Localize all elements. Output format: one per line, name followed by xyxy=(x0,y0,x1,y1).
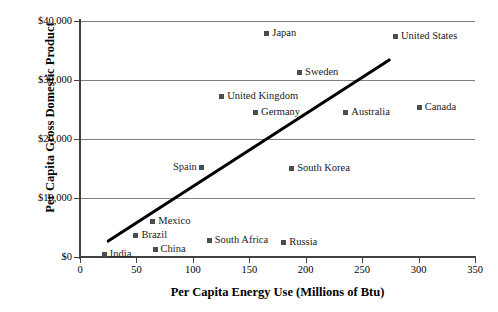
y-tick-label: $30,000 xyxy=(0,74,72,85)
x-tick-mark xyxy=(80,258,81,263)
y-axis-line xyxy=(79,19,81,259)
data-point-marker xyxy=(207,238,212,243)
y-axis-title-text: Per Capita Gross Domestic Product xyxy=(43,22,57,212)
data-point-marker xyxy=(297,70,302,75)
x-tick-mark xyxy=(249,258,250,263)
data-point-label: China xyxy=(161,243,186,255)
x-tick-mark xyxy=(306,258,307,263)
data-point-marker xyxy=(253,110,258,115)
data-point-label: Australia xyxy=(351,106,390,118)
x-tick-mark xyxy=(362,258,363,263)
data-point-marker xyxy=(150,219,155,224)
y-tick-label: $40,000 xyxy=(0,15,72,26)
data-point-marker xyxy=(264,31,269,36)
x-tick-label: 300 xyxy=(399,264,439,275)
y-tick-mark xyxy=(74,80,79,81)
data-point-label: Spain xyxy=(173,161,197,173)
data-point-label: Mexico xyxy=(158,215,190,227)
x-axis-title-text: Per Capita Energy Use (Millions of Btu) xyxy=(171,285,385,299)
y-tick-mark xyxy=(74,257,79,258)
chart-figure: $0$10,000$20,000$30,000$40,000 050100150… xyxy=(0,0,498,312)
data-point-marker xyxy=(393,34,398,39)
data-point-label: Canada xyxy=(425,101,457,113)
x-axis-line xyxy=(79,256,476,258)
data-point-marker xyxy=(153,247,158,252)
data-point-label: South Korea xyxy=(297,162,350,174)
plot-area xyxy=(80,21,475,257)
data-point-label: South Africa xyxy=(215,234,268,246)
x-tick-mark xyxy=(193,258,194,263)
data-point-marker xyxy=(133,233,138,238)
data-point-marker xyxy=(417,105,422,110)
data-point-label: Japan xyxy=(272,27,296,39)
y-tick-mark xyxy=(74,198,79,199)
y-axis-title: Per Capita Gross Domestic Product xyxy=(43,0,58,238)
y-tick-label: $20,000 xyxy=(0,133,72,144)
data-point-marker xyxy=(289,166,294,171)
data-point-marker xyxy=(219,94,224,99)
x-axis-title: Per Capita Energy Use (Millions of Btu) xyxy=(79,285,476,300)
data-point-marker xyxy=(343,110,348,115)
gridline xyxy=(80,80,475,81)
x-tick-label: 100 xyxy=(173,264,213,275)
x-tick-label: 50 xyxy=(116,264,156,275)
x-tick-label: 350 xyxy=(455,264,495,275)
y-tick-mark xyxy=(74,139,79,140)
data-point-marker xyxy=(199,165,204,170)
x-tick-mark xyxy=(475,258,476,263)
data-point-label: United States xyxy=(401,30,457,42)
y-tick-mark xyxy=(74,21,79,22)
gridline xyxy=(80,21,475,22)
x-tick-label: 250 xyxy=(342,264,382,275)
gridline xyxy=(80,198,475,199)
x-tick-mark xyxy=(136,258,137,263)
x-tick-label: 200 xyxy=(286,264,326,275)
data-point-marker xyxy=(281,240,286,245)
x-tick-label: 0 xyxy=(60,264,100,275)
data-point-label: United Kingdom xyxy=(227,90,298,102)
y-tick-label: $10,000 xyxy=(0,192,72,203)
data-point-label: Russia xyxy=(289,236,317,248)
x-tick-label: 150 xyxy=(229,264,269,275)
data-point-label: India xyxy=(110,248,132,260)
data-point-marker xyxy=(102,252,107,257)
data-point-label: Germany xyxy=(261,106,300,118)
x-tick-mark xyxy=(419,258,420,263)
gridline xyxy=(80,139,475,140)
y-tick-label: $0 xyxy=(0,251,72,262)
data-point-label: Sweden xyxy=(305,66,338,78)
data-point-label: Brazil xyxy=(141,229,167,241)
